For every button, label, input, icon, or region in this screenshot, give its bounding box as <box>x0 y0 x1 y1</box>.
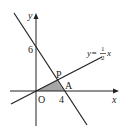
tick-label-4: 4 <box>59 94 64 105</box>
x-axis-arrow-icon <box>113 89 119 94</box>
x-axis-label: x <box>111 94 117 105</box>
equation-prefix: y= <box>86 48 97 58</box>
fraction-numerator: 1 <box>101 45 105 53</box>
point-label-p: P <box>56 69 62 80</box>
y-axis-label: y <box>27 10 33 21</box>
equation-suffix: x <box>106 48 111 58</box>
point-label-a: A <box>65 80 73 91</box>
tick-label-6: 6 <box>28 44 33 55</box>
coordinate-diagram: y x O 6 4 P A y= 1 2 x <box>0 0 128 135</box>
y-axis-arrow-icon <box>34 13 39 19</box>
origin-label: O <box>38 94 45 105</box>
line-half-x <box>11 57 102 104</box>
fraction-denominator: 2 <box>101 54 105 62</box>
line-decreasing <box>14 13 87 125</box>
